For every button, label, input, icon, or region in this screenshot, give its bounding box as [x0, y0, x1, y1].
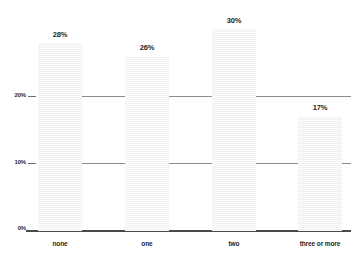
bar-value-one: 26% [125, 43, 169, 52]
category-label-none: none [34, 240, 86, 248]
bar-value-none: 28% [38, 30, 82, 39]
ytick-label-10: 10% [2, 159, 26, 166]
ytick-label-20: 20% [2, 92, 26, 99]
bar-chart: 20% 10% 0% 28% 26% 30% 17% none one two … [0, 0, 355, 267]
bar-three-or-more [298, 117, 342, 231]
ytick-mark-20 [28, 96, 36, 97]
bar-none [38, 43, 82, 231]
ytick-label-0: 0% [2, 225, 26, 232]
gridline-20 [38, 96, 351, 97]
category-label-three-or-more: three or more [288, 240, 352, 248]
bar-one [125, 56, 169, 231]
category-label-two: two [208, 240, 260, 248]
bar-value-three-or-more: 17% [298, 103, 342, 112]
bar-value-two: 30% [212, 16, 256, 25]
bar-two [212, 29, 256, 231]
plot-area: 20% 10% 0% 28% 26% 30% 17% none one two … [0, 0, 355, 267]
category-label-one: one [121, 240, 173, 248]
ytick-mark-10 [28, 163, 36, 164]
